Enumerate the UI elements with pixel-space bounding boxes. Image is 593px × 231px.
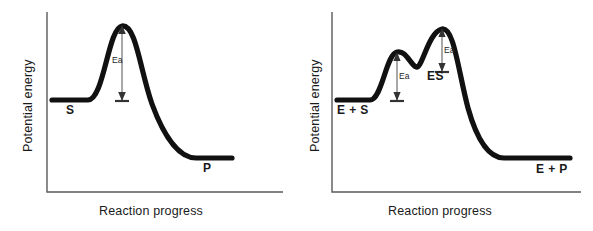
activation-energy-2-label: Ea — [444, 46, 455, 55]
reaction-curve-uncatalyzed — [52, 26, 232, 158]
state-label-substrate: S — [66, 104, 74, 116]
activation-energy-arrow-head-down — [118, 92, 126, 101]
x-axis-label: Reaction progress — [99, 205, 203, 218]
x-axis-label: Reaction progress — [388, 205, 492, 218]
activation-energy-1-arrow-head-down — [393, 92, 400, 101]
state-label-enzyme-product: E + P — [536, 163, 568, 175]
state-label-product: P — [203, 162, 211, 174]
panel-catalyzed: Potential energy Reaction progress E + S… — [296, 0, 593, 231]
y-axis-label: Potential energy — [22, 59, 35, 152]
activation-energy-1-label: Ea — [399, 72, 410, 81]
activation-energy-label: Ea — [112, 56, 123, 65]
state-label-es-complex: ES — [427, 70, 444, 82]
energy-diagram-figure: Potential energy Reaction progress S P E… — [0, 0, 593, 231]
uncatalyzed-plot-svg — [0, 0, 297, 231]
panel-uncatalyzed: Potential energy Reaction progress S P E… — [0, 0, 297, 231]
state-label-enzyme-substrate: E + S — [337, 104, 369, 116]
y-axis-label: Potential energy — [309, 59, 322, 152]
